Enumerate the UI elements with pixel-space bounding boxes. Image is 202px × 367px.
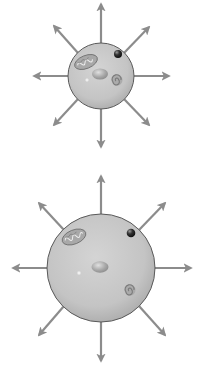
arrow-up-right-icon — [124, 27, 149, 53]
cell-growth-diagram — [0, 0, 202, 367]
arrow-down-left-icon — [39, 306, 64, 335]
bright-granule-icon — [85, 78, 89, 82]
arrow-up-right-icon — [139, 203, 165, 230]
nucleus-icon — [92, 261, 109, 273]
arrow-down-right-icon — [124, 99, 149, 125]
arrow-down-left-icon — [54, 99, 78, 125]
arrow-up-left-icon — [54, 26, 78, 53]
bright-granule-icon — [77, 271, 82, 276]
dark-vesicle-icon — [127, 229, 136, 238]
spiral-golgi-icon — [125, 285, 136, 296]
large-cell-group — [13, 176, 191, 361]
small-cell-group — [34, 4, 169, 147]
arrow-down-right-icon — [139, 306, 165, 335]
spiral-golgi-icon — [112, 75, 123, 86]
nucleus-icon — [92, 69, 108, 80]
dark-vesicle-icon — [114, 50, 122, 58]
arrow-up-left-icon — [39, 203, 64, 230]
